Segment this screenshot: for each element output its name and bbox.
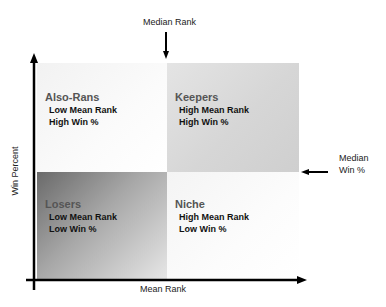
y-axis-label: Win Percent <box>10 146 20 196</box>
x-axis-label: Mean Rank <box>140 284 186 294</box>
median-rank-label: Median Rank <box>143 17 196 27</box>
median-win-label-line2: Win % <box>339 165 365 175</box>
median-win-label-line1: Median <box>339 153 369 163</box>
axes-and-arrows <box>0 0 386 307</box>
